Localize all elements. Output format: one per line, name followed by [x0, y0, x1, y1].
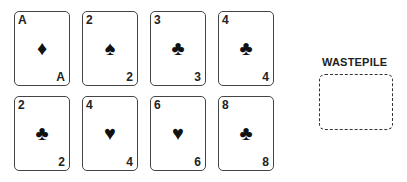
card-rank-top: 4 [86, 98, 93, 112]
spade-icon: ♠ [105, 38, 116, 58]
wastepile-label: WASTEPILE [322, 56, 387, 68]
card-3-of-clubs[interactable]: 3♣3 [150, 11, 206, 86]
card-8-of-clubs[interactable]: 8♣8 [218, 96, 274, 171]
card-rank-bottom: 8 [262, 155, 269, 169]
card-rank-bottom: A [56, 70, 65, 84]
club-icon: ♣ [35, 123, 48, 143]
card-rank-bottom: 3 [194, 70, 201, 84]
card-4-of-hearts[interactable]: 4♥4 [82, 96, 138, 171]
club-icon: ♣ [239, 38, 252, 58]
card-rank-top: 3 [154, 13, 161, 27]
card-rank-bottom: 4 [262, 70, 269, 84]
card-rank-top: 2 [18, 98, 25, 112]
diamond-icon: ♦ [37, 38, 47, 58]
card-rank-bottom: 6 [194, 155, 201, 169]
heart-icon: ♥ [104, 123, 116, 143]
club-icon: ♣ [171, 38, 184, 58]
card-2-of-clubs[interactable]: 2♣2 [14, 96, 70, 171]
wastepile-slot[interactable] [319, 74, 393, 130]
card-rank-top: 4 [222, 13, 229, 27]
card-a-of-diamonds[interactable]: A♦A [14, 11, 70, 86]
card-rank-bottom: 4 [126, 155, 133, 169]
card-2-of-spades[interactable]: 2♠2 [82, 11, 138, 86]
card-rank-bottom: 2 [58, 155, 65, 169]
card-rank-top: A [18, 13, 27, 27]
heart-icon: ♥ [172, 123, 184, 143]
card-rank-bottom: 2 [126, 70, 133, 84]
card-6-of-hearts[interactable]: 6♥6 [150, 96, 206, 171]
card-rank-top: 2 [86, 13, 93, 27]
card-rank-top: 6 [154, 98, 161, 112]
card-rank-top: 8 [222, 98, 229, 112]
club-icon: ♣ [239, 123, 252, 143]
card-4-of-clubs[interactable]: 4♣4 [218, 11, 274, 86]
